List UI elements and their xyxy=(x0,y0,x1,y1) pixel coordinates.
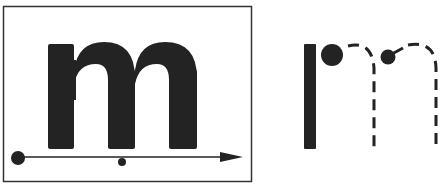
letter-stroke-diagram xyxy=(0,0,445,189)
dashed-arch-1 xyxy=(348,45,374,150)
mid-dot xyxy=(118,158,126,166)
start-dot xyxy=(11,151,25,165)
stroke-start-dot-1 xyxy=(321,44,343,66)
dashed-arch-2 xyxy=(408,44,436,150)
first-stroke xyxy=(304,44,316,149)
left-panel xyxy=(4,7,252,182)
letter-m xyxy=(48,42,197,149)
stroke-tail-2 xyxy=(392,48,403,54)
right-panel-stroke-guide xyxy=(304,44,436,150)
